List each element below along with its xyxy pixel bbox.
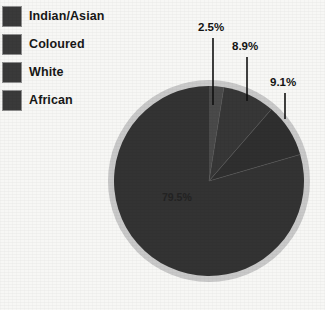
legend-label-coloured: Coloured [29, 38, 85, 51]
pie-chart-figure: Indian/Asian Coloured White African [0, 0, 325, 310]
value-label-indian-asian: 2.5% [198, 22, 224, 34]
value-label-white: 9.1% [270, 77, 296, 89]
legend-item-white: White [2, 61, 64, 83]
legend-swatch-indian-asian [2, 6, 22, 27]
legend-swatch-african [2, 90, 22, 111]
legend-label-white: White [29, 66, 64, 79]
legend-swatch-coloured [2, 34, 22, 55]
legend-item-african: African [2, 89, 73, 111]
legend-label-indian-asian: Indian/Asian [29, 10, 105, 23]
value-label-coloured: 8.9% [232, 41, 258, 53]
legend-label-african: African [29, 94, 73, 107]
legend-swatch-white [2, 62, 22, 83]
legend-item-indian-asian: Indian/Asian [2, 5, 105, 27]
value-label-african: 79.5% [162, 192, 192, 203]
legend-item-coloured: Coloured [2, 33, 85, 55]
